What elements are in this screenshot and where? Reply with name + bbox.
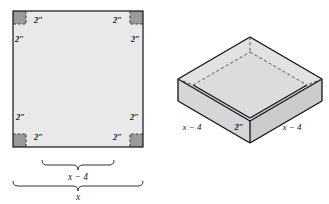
corner-label-bottom-left-outer: 2″ (15, 112, 25, 122)
corner-label-bottom-right-inner: 2″ (112, 132, 122, 142)
corner-label-top-left-outer: 2″ (14, 34, 24, 44)
corner-label-bottom-left-inner: 2″ (33, 132, 43, 142)
box-label-height: 2″ (234, 122, 244, 132)
geometry-figure: 2″ 2″ 2″ 2″ 2″ 2″ 2″ 2″ x − 4 x (0, 0, 329, 204)
corner-label-top-right-outer: 2″ (130, 34, 140, 44)
sheet-body (13, 11, 143, 147)
open-box-group: x − 4 2″ x − 4 (178, 37, 322, 143)
brace-inner (42, 160, 114, 170)
brace-outer (13, 181, 143, 191)
corner-label-top-left-inner: 2″ (33, 15, 43, 25)
square-sheet-group: 2″ 2″ 2″ 2″ 2″ 2″ 2″ 2″ x − 4 x (13, 11, 143, 202)
corner-cutout-top-right (130, 11, 143, 24)
brace-inner-label: x − 4 (67, 172, 88, 182)
box-label-left-base-edge: x − 4 (181, 122, 202, 132)
brace-outer-label: x (75, 192, 81, 202)
corner-cutout-bottom-right (130, 134, 143, 147)
corner-label-top-right-inner: 2″ (112, 15, 122, 25)
corner-cutout-top-left (13, 11, 26, 24)
corner-cutout-bottom-left (13, 134, 26, 147)
figure-root: 2″ 2″ 2″ 2″ 2″ 2″ 2″ 2″ x − 4 x (0, 0, 329, 204)
corner-label-bottom-right-outer: 2″ (129, 112, 139, 122)
box-label-right-base-edge: x − 4 (281, 122, 302, 132)
